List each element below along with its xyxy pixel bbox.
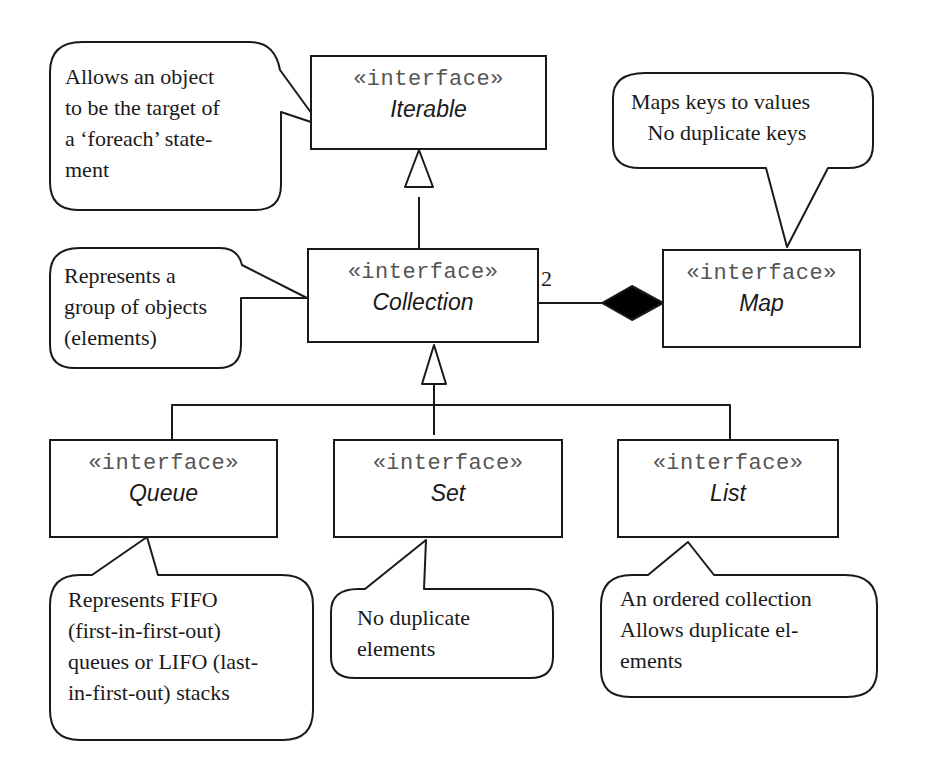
stereotype-label: «interface» bbox=[348, 260, 499, 285]
stereotype-label: «interface» bbox=[686, 261, 837, 286]
interface-name-set: Set bbox=[431, 480, 466, 507]
generalization-arrowhead-iterable bbox=[405, 150, 433, 187]
stereotype-label: «interface» bbox=[653, 451, 804, 476]
generalization-arrowhead-collection bbox=[422, 345, 446, 384]
note-text-set: No duplicate elements bbox=[357, 602, 470, 664]
interface-box-queue[interactable]: «interface» Queue bbox=[49, 439, 278, 538]
interface-box-iterable[interactable]: «interface» Iterable bbox=[310, 55, 547, 150]
uml-collection-diagram: «interface» Iterable «interface» Collect… bbox=[0, 0, 931, 774]
composition-diamond-map bbox=[602, 286, 663, 320]
interface-name-iterable: Iterable bbox=[390, 96, 467, 123]
interface-box-list[interactable]: «interface» List bbox=[617, 439, 839, 538]
note-text-collection: Represents a group of objects (elements) bbox=[64, 260, 207, 353]
interface-name-collection: Collection bbox=[373, 289, 474, 316]
interface-box-set[interactable]: «interface» Set bbox=[333, 439, 563, 538]
interface-box-collection[interactable]: «interface» Collection bbox=[307, 248, 539, 343]
stereotype-label: «interface» bbox=[353, 67, 504, 92]
multiplicity-label: 2 bbox=[541, 266, 552, 292]
generalization-bus-line bbox=[172, 405, 730, 440]
interface-name-queue: Queue bbox=[129, 480, 198, 507]
note-text-map: Maps keys to values No duplicate keys bbox=[631, 86, 810, 148]
interface-name-map: Map bbox=[739, 290, 784, 317]
note-text-iterable: Allows an object to be the target of a ‘… bbox=[65, 61, 220, 185]
stereotype-label: «interface» bbox=[373, 451, 524, 476]
interface-box-map[interactable]: «interface» Map bbox=[662, 249, 861, 348]
stereotype-label: «interface» bbox=[88, 451, 239, 476]
note-text-queue: Represents FIFO (first-in-first-out) que… bbox=[68, 584, 258, 708]
note-text-list: An ordered collection Allows duplicate e… bbox=[620, 583, 812, 676]
interface-name-list: List bbox=[710, 480, 746, 507]
